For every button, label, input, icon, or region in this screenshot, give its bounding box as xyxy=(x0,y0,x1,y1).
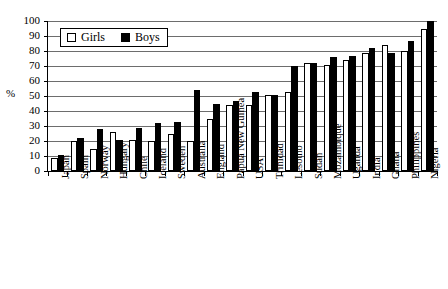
x-axis-label: Hungary xyxy=(119,142,130,179)
x-axis-label: England xyxy=(216,144,227,179)
legend-swatch-boys-icon xyxy=(121,33,130,42)
legend-label-girls: Girls xyxy=(81,31,105,43)
x-axis-label: Japan xyxy=(61,155,72,179)
y-axis-title: % xyxy=(6,88,15,99)
legend-label-boys: Boys xyxy=(135,31,160,43)
x-axis-label: USA xyxy=(255,158,266,179)
x-axis-label: Lesotho xyxy=(294,145,305,179)
x-axis-label: Norway xyxy=(100,145,111,179)
x-axis-label: Sudan xyxy=(314,153,325,179)
x-axis-tick-mark xyxy=(48,171,49,176)
x-axis-label: Australia xyxy=(197,141,208,180)
x-axis-label: Papua New Guinea xyxy=(236,98,247,179)
legend-entry-boys: Boys xyxy=(121,31,160,43)
x-axis-label: Trinidad xyxy=(275,143,286,179)
x-axis-label: India xyxy=(372,157,383,179)
x-axis-label: Spain xyxy=(80,155,91,179)
bar-chart: % Girls Boys 0102030405060708090100Japan… xyxy=(0,0,448,289)
bar-group xyxy=(379,21,398,171)
legend-entry-girls: Girls xyxy=(67,31,105,43)
x-axis-label: Sweden xyxy=(177,146,188,179)
x-axis-label: Mozambique xyxy=(333,124,344,179)
x-axis-label: Ghana xyxy=(391,152,402,179)
x-axis-label: Philippines xyxy=(411,132,422,179)
bar-boys xyxy=(369,48,376,171)
legend-swatch-girls-icon xyxy=(67,33,76,42)
x-axis-label: Nigeria xyxy=(430,148,441,180)
x-axis-label: Chile xyxy=(139,156,150,179)
x-axis-label: Uganda xyxy=(352,146,363,179)
chart-legend: Girls Boys xyxy=(60,28,168,47)
x-axis-label: Iceland xyxy=(158,148,169,179)
